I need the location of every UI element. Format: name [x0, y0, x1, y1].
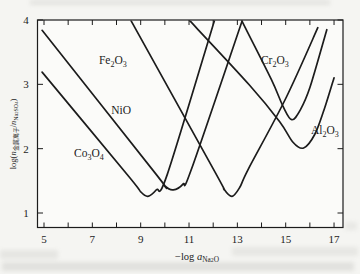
x-tick-label-17: 17: [329, 233, 340, 244]
x-tick-label-13: 13: [232, 233, 243, 244]
scanned-page: { "figure": { "background": "#f5f5f2", "…: [0, 0, 360, 274]
x-tick-label-7: 7: [90, 233, 96, 244]
x-axis-title: −log aNa2O: [175, 252, 219, 263]
y-tick-label-1: 1: [23, 208, 29, 219]
solubility-chart: 579111315171234Co3O4NiOFe2O3Cr2O3Al2O3−l…: [0, 0, 360, 274]
x-tick-label-9: 9: [138, 233, 144, 244]
x-tick-label-15: 15: [280, 233, 291, 244]
series-label-Co3O4: Co3O4: [74, 148, 104, 160]
series-label-Al2O3: Al2O3: [311, 125, 339, 137]
axes-frame: [38, 20, 344, 228]
series-label-NiO: NiO: [111, 105, 131, 117]
series-label-Cr2O3: Cr2O3: [261, 55, 289, 67]
plot-canvas: [0, 0, 360, 274]
y-tick-label-3: 3: [23, 79, 29, 90]
x-tick-label-5: 5: [41, 233, 47, 244]
series-label-Fe2O3: Fe2O3: [99, 55, 127, 67]
y-tick-label-4: 4: [23, 15, 29, 26]
y-tick-label-2: 2: [23, 143, 29, 154]
y-axis-title: log(n金属离子/nNa2SO4): [9, 99, 18, 170]
x-tick-label-11: 11: [184, 233, 195, 244]
